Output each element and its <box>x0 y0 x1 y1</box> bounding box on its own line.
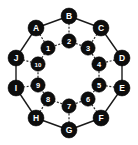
inner-node-8[interactable]: 8 <box>41 92 55 106</box>
node-disc <box>31 57 45 71</box>
node-disc <box>28 110 44 126</box>
node-disc <box>62 34 76 48</box>
inner-node-1[interactable]: 1 <box>41 41 55 55</box>
node-disc <box>114 50 130 66</box>
node-disc <box>28 20 44 36</box>
inner-nodes: 12345678910 <box>31 34 106 113</box>
outer-node-j[interactable]: J <box>8 50 24 66</box>
node-disc <box>92 57 106 71</box>
outer-node-a[interactable]: A <box>28 20 44 36</box>
outer-node-h[interactable]: H <box>28 110 44 126</box>
node-disc <box>31 78 45 92</box>
node-disc <box>62 99 76 113</box>
outer-node-i[interactable]: I <box>8 80 24 96</box>
outer-node-c[interactable]: C <box>93 20 109 36</box>
outer-node-f[interactable]: F <box>93 110 109 126</box>
graph-figure: ABCDEFGHIJ 12345678910 <box>0 0 138 145</box>
inner-node-3[interactable]: 3 <box>81 41 95 55</box>
node-disc <box>8 80 24 96</box>
outer-node-e[interactable]: E <box>114 80 130 96</box>
inner-node-7[interactable]: 7 <box>62 99 76 113</box>
inner-node-2[interactable]: 2 <box>62 34 76 48</box>
node-disc <box>93 110 109 126</box>
inner-node-5[interactable]: 5 <box>92 78 106 92</box>
node-disc <box>114 80 130 96</box>
node-disc <box>41 41 55 55</box>
node-disc <box>61 122 77 138</box>
node-disc <box>92 78 106 92</box>
node-disc <box>61 8 77 24</box>
inner-node-6[interactable]: 6 <box>81 92 95 106</box>
node-disc <box>81 41 95 55</box>
node-disc <box>81 92 95 106</box>
graph-canvas: ABCDEFGHIJ 12345678910 <box>0 0 138 145</box>
outer-node-b[interactable]: B <box>61 8 77 24</box>
outer-node-g[interactable]: G <box>61 122 77 138</box>
node-disc <box>8 50 24 66</box>
outer-node-d[interactable]: D <box>114 50 130 66</box>
inner-node-4[interactable]: 4 <box>92 57 106 71</box>
inner-node-10[interactable]: 10 <box>31 57 45 71</box>
inner-node-9[interactable]: 9 <box>31 78 45 92</box>
node-disc <box>41 92 55 106</box>
node-disc <box>93 20 109 36</box>
